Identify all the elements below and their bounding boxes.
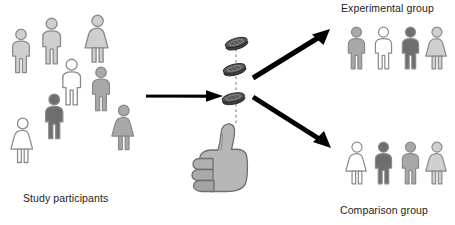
diagram-canvas: Study participants Experimental group Co… <box>0 0 455 225</box>
person-participant-6-male-dark-gray <box>41 93 68 140</box>
arrow-randomizer-to-comparison <box>252 94 334 150</box>
person-participant-8-female-medium-gray <box>110 104 138 151</box>
person-experimental-1-male-medium-gray <box>344 26 369 70</box>
person-experimental-4-female-light-gray <box>424 26 450 70</box>
arrow-randomizer-to-experimental <box>252 28 332 80</box>
person-comparison-1-female-white <box>344 141 370 185</box>
person-experimental-3-male-dark-gray <box>398 26 423 70</box>
person-participant-1-male-light-gray <box>8 28 34 74</box>
coin-middle-icon <box>221 60 248 79</box>
person-comparison-3-male-medium-gray <box>398 141 423 185</box>
person-comparison-2-male-dark-gray <box>371 141 396 185</box>
arrow-participants-to-randomizer <box>146 88 224 104</box>
person-experimental-2-male-white <box>371 26 396 70</box>
label-experimental-group: Experimental group <box>341 2 434 14</box>
label-study-participants: Study participants <box>23 192 108 204</box>
coin-trajectory-dashed-line <box>233 38 239 128</box>
thumbs-up-hand-icon <box>191 120 253 198</box>
person-comparison-4-female-light-gray <box>424 141 450 185</box>
person-participant-3-female-light-gray <box>83 14 112 64</box>
person-participant-7-female-white <box>9 117 37 164</box>
label-comparison-group: Comparison group <box>340 204 428 216</box>
